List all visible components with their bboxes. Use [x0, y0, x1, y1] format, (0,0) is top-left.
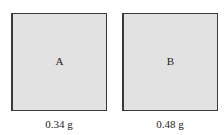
sample-b-mass: 0.48 g — [121, 118, 219, 130]
sample-b-square: B — [122, 13, 218, 111]
sample-b-label: B — [124, 55, 217, 67]
sample-a-square: A — [11, 13, 107, 111]
sample-a-mass: 0.34 g — [10, 118, 108, 130]
sample-a-label: A — [13, 55, 106, 67]
